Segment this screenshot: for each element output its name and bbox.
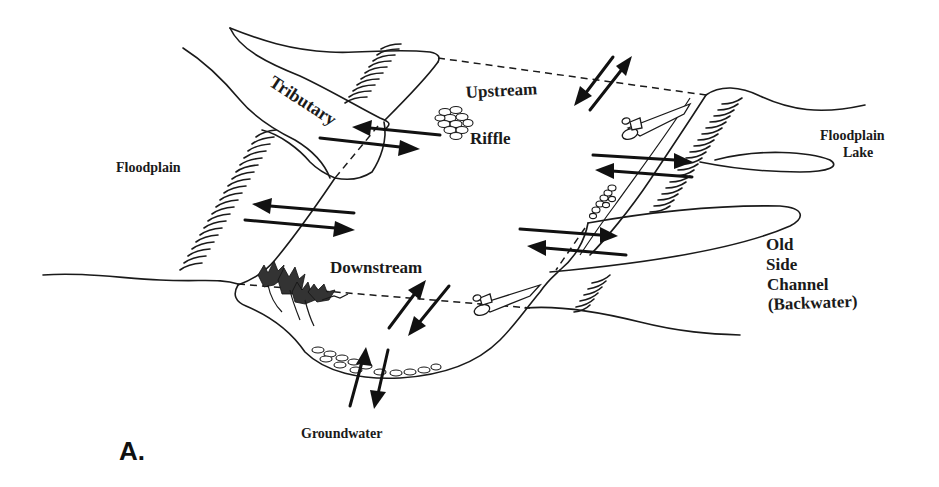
label-groundwater: Groundwater [301, 426, 382, 441]
label-old-side-channel-3: Channel [767, 275, 829, 294]
left-bank-hatching [180, 130, 276, 270]
river-exchange-diagram: Tributary Upstream Riffle Floodplain Flo… [0, 0, 939, 487]
label-old-side-channel-4: (Backwater) [767, 292, 857, 314]
label-downstream: Downstream [330, 258, 422, 277]
downstream-channel [235, 261, 560, 378]
label-tributary: Tributary [266, 72, 340, 130]
label-floodplain: Floodplain [116, 160, 181, 175]
old-side-channel [525, 185, 800, 335]
floodplain-lake [700, 152, 834, 172]
arrow-side-channel-exchange [520, 227, 626, 256]
panel-label: A. [119, 436, 145, 466]
arrow-tributary-exchange [320, 120, 440, 156]
bank-stones [590, 185, 617, 219]
label-floodplain-lake-1: Floodplain [820, 128, 885, 143]
side-channel-hatching [574, 275, 610, 312]
woody-debris-downstream-icon [472, 285, 540, 317]
label-floodplain-lake-2: Lake [843, 145, 873, 160]
bed-stones [312, 347, 441, 376]
label-upstream: Upstream [465, 79, 537, 102]
label-old-side-channel-1: Old [766, 235, 794, 254]
arrow-downstream-exchange [389, 280, 449, 336]
label-riffle: Riffle [470, 129, 511, 148]
arrow-left-floodplain-exchange [245, 198, 355, 237]
label-old-side-channel-2: Side [766, 255, 798, 274]
